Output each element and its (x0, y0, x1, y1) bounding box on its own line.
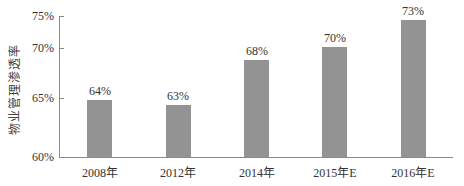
bar-value-label: 64% (89, 84, 111, 99)
bar-2014 (244, 60, 269, 157)
y-tick-70: 70% (32, 41, 54, 56)
bar-value-label: 70% (324, 31, 346, 46)
x-tick-2015e: 2015年E (313, 163, 356, 181)
bar-chart: 物业管理渗透率 75% 70% 65% 60% 64% 63% 68% 70% … (0, 0, 464, 186)
y-tick-75: 75% (32, 9, 54, 24)
bar-value-label: 68% (246, 44, 268, 59)
bar-2008 (87, 100, 112, 157)
x-tick-2014: 2014年 (239, 163, 275, 181)
y-axis-label: 物业管理渗透率 (5, 44, 23, 135)
y-tick-65: 65% (32, 91, 54, 106)
x-tick-2008: 2008年 (82, 163, 118, 181)
bar-2015e (322, 47, 347, 157)
x-tick-2016e: 2016年E (391, 163, 434, 181)
bar-value-label: 73% (402, 4, 424, 19)
y-tick-mark (59, 16, 64, 17)
bar-value-label: 63% (167, 89, 189, 104)
y-axis-line (59, 16, 60, 158)
bar-2016e (401, 20, 426, 157)
bar-2012 (166, 105, 191, 157)
y-tick-60: 60% (32, 150, 54, 165)
y-tick-mark (59, 48, 64, 49)
x-axis-line (59, 157, 453, 158)
x-tick-2012: 2012年 (160, 163, 196, 181)
y-tick-mark (59, 98, 64, 99)
